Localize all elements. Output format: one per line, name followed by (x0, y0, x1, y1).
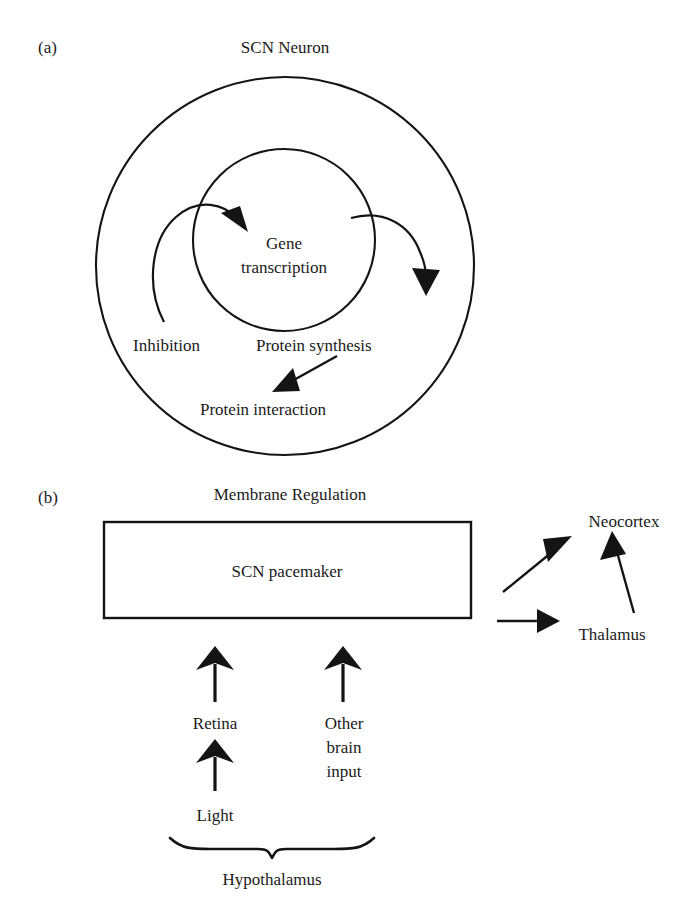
arrow-pacemaker-to-neocortex (503, 536, 572, 592)
protein-synthesis-arrow-head (412, 268, 440, 296)
inhibition-label: Inhibition (133, 336, 201, 355)
arrow-inhibition-to-gene-transcription (153, 205, 248, 322)
pacemaker-thalamus-arrow-head (537, 609, 560, 633)
arrow-light-to-retina (196, 739, 234, 791)
retina-label: Retina (193, 714, 238, 733)
neocortex-label: Neocortex (589, 512, 660, 531)
figure-canvas: (a) SCN Neuron Gene transcription Inhibi… (0, 0, 693, 917)
panel-a-title: SCN Neuron (241, 38, 330, 57)
protein-interaction-arrow-head (272, 368, 300, 392)
panel-b-title: Membrane Regulation (214, 485, 367, 504)
light-label: Light (197, 806, 234, 825)
arrow-pacemaker-to-thalamus (497, 609, 560, 633)
protein-synthesis-label: Protein synthesis (256, 336, 372, 355)
gene-transcription-label-line1: Gene (266, 234, 302, 253)
pacemaker-neocortex-arrow-head (543, 536, 572, 562)
thalamus-neocortex-arrow-shaft (617, 552, 634, 613)
thalamus-label: Thalamus (578, 625, 645, 644)
other-brain-input-label-line1: Other (325, 714, 364, 733)
panel-b: (b) Membrane Regulation SCN pacemaker Ne… (38, 485, 660, 889)
protein-interaction-arrow-shaft (292, 356, 337, 381)
hypothalamus-label: Hypothalamus (222, 870, 321, 889)
thalamus-neocortex-arrow-head (600, 531, 626, 560)
arrow-thalamus-to-neocortex (600, 531, 634, 613)
panel-a: (a) SCN Neuron Gene transcription Inhibi… (38, 38, 474, 455)
gene-transcription-label-line2: transcription (241, 258, 327, 277)
protein-interaction-label: Protein interaction (200, 400, 327, 419)
other-brain-input-label-line3: input (327, 762, 362, 781)
panel-a-label: (a) (38, 38, 57, 57)
panel-b-label: (b) (38, 488, 58, 507)
hypothalamus-brace (170, 838, 374, 858)
other-brain-input-label-line2: brain (327, 738, 362, 757)
arrow-retina-to-pacemaker (196, 646, 234, 702)
scn-pacemaker-label: SCN pacemaker (232, 562, 343, 581)
arrow-protein-synthesis-to-protein-interaction (272, 356, 337, 392)
arrow-other-brain-input-to-pacemaker (324, 646, 362, 702)
